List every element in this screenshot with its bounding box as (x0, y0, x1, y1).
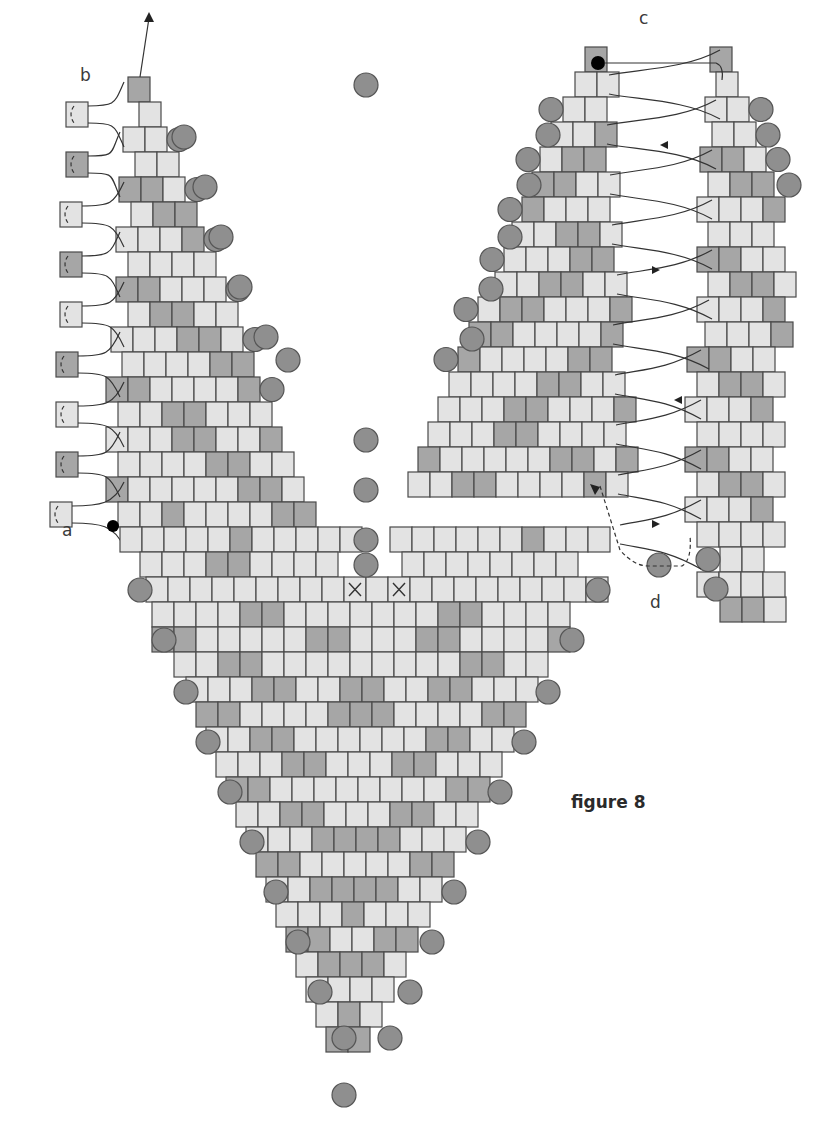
cylinder-bead (356, 827, 378, 852)
cylinder-bead (538, 422, 560, 447)
round-bead (756, 123, 780, 147)
cylinder-bead (705, 322, 727, 347)
cylinder-bead (749, 322, 771, 347)
cylinder-bead (128, 477, 150, 502)
cylinder-bead (140, 552, 162, 577)
cylinder-bead (763, 197, 785, 222)
cylinder-bead (540, 147, 562, 172)
cylinder-bead (352, 927, 374, 952)
cylinder-bead (534, 222, 556, 247)
cylinder-bead (592, 247, 614, 272)
cylinder-bead (548, 602, 570, 627)
round-bead (539, 98, 563, 122)
cylinder-bead (741, 297, 763, 322)
cylinder-bead (526, 397, 548, 422)
cylinder-bead (174, 627, 196, 652)
beadwork-diagram: a b c d figure 8 (0, 0, 840, 1127)
cylinder-bead (172, 252, 194, 277)
cylinder-bead (460, 702, 482, 727)
cylinder-bead (566, 527, 588, 552)
cylinder-bead (152, 602, 174, 627)
cylinder-bead (133, 327, 155, 352)
cylinder-bead (258, 802, 280, 827)
cylinder-bead (194, 302, 216, 327)
cylinder-bead (462, 447, 484, 472)
round-bead (354, 528, 378, 552)
cylinder-bead (504, 602, 526, 627)
cylinder-bead (172, 302, 194, 327)
cylinder-bead (476, 577, 498, 602)
figure-caption: figure 8 (571, 792, 646, 812)
cylinder-bead (290, 827, 312, 852)
cylinder-bead (268, 827, 290, 852)
cylinder-bead (504, 627, 526, 652)
cylinder-bead (708, 222, 730, 247)
cylinder-bead (278, 577, 300, 602)
cylinder-bead (482, 702, 504, 727)
cylinder-bead (490, 552, 512, 577)
round-bead (536, 680, 560, 704)
cylinder-bead (496, 472, 518, 497)
cylinder-bead (382, 727, 404, 752)
cylinder-bead (416, 702, 438, 727)
cylinder-bead (123, 127, 145, 152)
cylinder-bead (520, 577, 542, 602)
cylinder-bead (162, 502, 184, 527)
cylinder-bead (306, 652, 328, 677)
cylinder-bead (118, 502, 140, 527)
cylinder-bead (206, 502, 228, 527)
cylinder-bead (284, 602, 306, 627)
cylinder-bead (396, 927, 418, 952)
cylinder-bead (376, 877, 398, 902)
cylinder-bead (539, 272, 561, 297)
cylinder-bead (184, 502, 206, 527)
cylinder-bead (408, 902, 430, 927)
round-bead (354, 73, 378, 97)
round-bead (332, 1083, 356, 1107)
cylinder-bead (194, 477, 216, 502)
cylinder-bead (480, 347, 502, 372)
cylinder-bead (216, 302, 238, 327)
cylinder-bead (221, 327, 243, 352)
cylinder-bead (438, 702, 460, 727)
cylinder-bead (252, 677, 274, 702)
cylinder-bead (340, 677, 362, 702)
bead-grid-svg (0, 0, 840, 1127)
cylinder-bead (741, 247, 763, 272)
cylinder-bead (362, 952, 384, 977)
cylinder-bead (336, 777, 358, 802)
cylinder-bead (556, 222, 578, 247)
cylinder-bead (730, 172, 752, 197)
cylinder-bead (741, 422, 763, 447)
cylinder-bead (236, 802, 258, 827)
cylinder-bead (406, 677, 428, 702)
cylinder-bead (322, 577, 344, 602)
cylinder-bead (751, 397, 773, 422)
start-point-a-icon (107, 520, 119, 532)
cylinder-bead (708, 272, 730, 297)
cylinder-bead (314, 777, 336, 802)
cylinder-bead (212, 577, 234, 602)
cylinder-bead (752, 272, 774, 297)
cylinder-bead (763, 472, 785, 497)
cylinder-bead (450, 677, 472, 702)
cylinder-bead (424, 777, 446, 802)
round-bead (647, 553, 671, 577)
thread-path-hidden (600, 486, 690, 566)
cylinder-bead (697, 472, 719, 497)
cylinder-bead (410, 852, 432, 877)
cylinder-bead (424, 552, 446, 577)
cylinder-bead (601, 322, 623, 347)
cylinder-bead (206, 452, 228, 477)
round-bead (442, 880, 466, 904)
cylinder-bead (544, 527, 566, 552)
round-bead (378, 1026, 402, 1050)
cylinder-bead (498, 577, 520, 602)
cylinder-bead (548, 247, 570, 272)
cylinder-bead (504, 397, 526, 422)
cylinder-bead (390, 802, 412, 827)
cylinder-bead (730, 222, 752, 247)
cylinder-bead (232, 352, 254, 377)
cylinder-bead (230, 677, 252, 702)
cylinder-bead (751, 497, 773, 522)
